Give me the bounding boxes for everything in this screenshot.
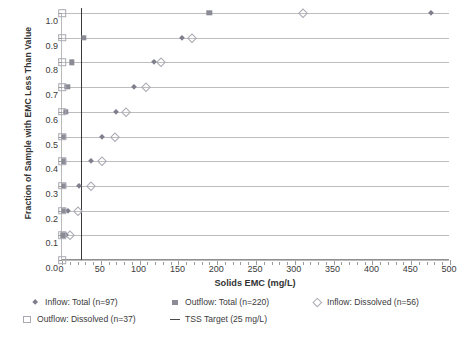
gridline xyxy=(62,137,449,138)
gridline xyxy=(62,186,449,187)
data-point xyxy=(58,256,66,264)
data-point xyxy=(179,35,185,41)
data-point xyxy=(58,59,66,67)
data-point xyxy=(428,10,434,16)
reference-line-tss-target xyxy=(81,8,82,260)
gridline xyxy=(62,235,449,236)
legend-label: TSS Target (25 mg/L) xyxy=(185,314,267,325)
gridline xyxy=(62,87,449,88)
y-axis-tick-label: 0.2 xyxy=(45,214,58,224)
y-axis-tick-label: 0.3 xyxy=(45,189,58,199)
y-axis-tick-label: 0.6 xyxy=(45,115,58,125)
data-point xyxy=(157,58,166,67)
x-axis-tick-label: 50 xyxy=(95,264,105,274)
legend-item: Outflow: Total (n=220) xyxy=(170,294,269,311)
data-point xyxy=(69,60,74,65)
x-axis-tick-label: 200 xyxy=(209,264,224,274)
gridline xyxy=(62,38,449,39)
legend-marker-diamond-open-icon xyxy=(312,298,322,308)
data-point xyxy=(58,232,66,240)
data-point xyxy=(131,84,137,90)
data-point xyxy=(110,132,119,141)
legend-label: Inflow: Dissolved (n=56) xyxy=(327,297,419,308)
data-point xyxy=(141,82,150,91)
data-point xyxy=(65,231,74,240)
x-axis-tick-label: 350 xyxy=(325,264,340,274)
gridline xyxy=(62,112,449,113)
data-point xyxy=(58,207,66,215)
legend-marker-diamond-filled-icon xyxy=(30,298,40,308)
data-point xyxy=(58,133,66,141)
data-point xyxy=(86,181,95,190)
data-point xyxy=(298,8,307,17)
data-point xyxy=(58,182,66,190)
gridline xyxy=(62,211,449,212)
y-axis-tick-label: 0.4 xyxy=(45,164,58,174)
x-axis-tick-label: 250 xyxy=(247,264,262,274)
y-axis-tick-labels: 0.00.10.20.30.40.50.60.70.80.91.0 xyxy=(18,8,58,264)
legend-item: TSS Target (25 mg/L) xyxy=(170,311,267,328)
legend-item: Outflow: Dissolved (n=37) xyxy=(22,311,136,328)
legend-row-1: Inflow: Total (n=97)Outflow: Total (n=22… xyxy=(22,294,442,311)
x-axis-title: Solids EMC (mg/L) xyxy=(61,278,449,288)
y-axis-tick-label: 0.8 xyxy=(45,65,58,75)
data-point xyxy=(113,109,119,115)
x-axis-tick-label: 400 xyxy=(364,264,379,274)
x-axis-tick-label: 300 xyxy=(286,264,301,274)
data-point xyxy=(58,83,66,91)
x-axis-tick-label: 500 xyxy=(441,264,456,274)
x-axis-tick-label: 150 xyxy=(170,264,185,274)
plot-area xyxy=(61,13,449,260)
chart-container: Fraction of Sample with EMC Less Than Va… xyxy=(0,0,458,338)
gridline xyxy=(62,260,449,261)
legend-row-2: Outflow: Dissolved (n=37)TSS Target (25 … xyxy=(22,311,442,328)
gridline xyxy=(62,13,449,14)
chart-legend: Inflow: Total (n=97)Outflow: Total (n=22… xyxy=(22,294,442,328)
legend-label: Outflow: Total (n=220) xyxy=(185,297,269,308)
y-axis-tick-label: 0.5 xyxy=(45,140,58,150)
data-point xyxy=(188,33,197,42)
y-axis-tick-label: 0.0 xyxy=(45,263,58,273)
data-point xyxy=(58,157,66,165)
legend-label: Outflow: Dissolved (n=37) xyxy=(37,314,136,325)
legend-item: Inflow: Dissolved (n=56) xyxy=(312,294,419,311)
data-point xyxy=(99,134,105,140)
data-point xyxy=(58,108,66,116)
gridline xyxy=(62,62,449,63)
x-axis-tick-labels: 050100150200250300350400450500 xyxy=(61,264,449,278)
legend-marker-square-open-icon xyxy=(22,315,32,325)
y-axis-tick-label: 1.0 xyxy=(45,16,58,26)
y-axis-tick-label: 0.9 xyxy=(45,41,58,51)
data-point xyxy=(151,59,157,65)
data-point xyxy=(58,9,66,17)
data-point xyxy=(121,107,130,116)
data-point xyxy=(98,157,107,166)
gridline xyxy=(62,161,449,162)
x-axis-tick-label: 0 xyxy=(58,264,63,274)
legend-marker-line-icon xyxy=(170,315,180,325)
x-axis-tick-label: 100 xyxy=(131,264,146,274)
y-axis-tick-label: 0.7 xyxy=(45,90,58,100)
data-point xyxy=(81,35,86,40)
x-axis-tick-label: 450 xyxy=(403,264,418,274)
legend-marker-square-filled-icon xyxy=(170,298,180,308)
data-point xyxy=(207,10,212,15)
legend-label: Inflow: Total (n=97) xyxy=(45,297,118,308)
y-axis-tick-label: 0.1 xyxy=(45,238,58,248)
data-point xyxy=(89,158,95,164)
legend-item: Inflow: Total (n=97) xyxy=(30,294,118,311)
data-point xyxy=(58,34,66,42)
